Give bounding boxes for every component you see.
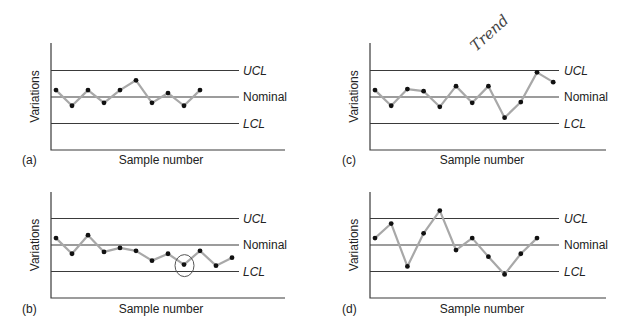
data-point bbox=[134, 248, 139, 253]
data-point bbox=[102, 100, 107, 105]
data-point bbox=[502, 115, 507, 120]
lcl-label: LCL bbox=[564, 265, 586, 279]
data-point bbox=[166, 251, 171, 256]
data-point bbox=[54, 236, 59, 241]
lcl-label: LCL bbox=[243, 265, 265, 279]
data-point bbox=[389, 221, 394, 226]
y-axis-label: Variations bbox=[28, 70, 42, 122]
y-axis-label: Variations bbox=[28, 219, 42, 271]
data-point bbox=[373, 88, 378, 93]
data-point bbox=[150, 258, 155, 263]
data-point bbox=[437, 208, 442, 213]
panel-label: (b) bbox=[22, 302, 37, 316]
data-point bbox=[198, 88, 203, 93]
data-point bbox=[70, 251, 75, 256]
data-point bbox=[405, 87, 410, 92]
data-point bbox=[454, 84, 459, 89]
panel-label: (d) bbox=[342, 302, 357, 316]
data-point bbox=[437, 104, 442, 109]
data-point bbox=[182, 262, 187, 267]
data-point bbox=[421, 231, 426, 236]
nominal-label: Nominal bbox=[564, 238, 608, 252]
x-axis-label: Sample number bbox=[119, 153, 204, 167]
x-axis-label: Sample number bbox=[440, 153, 525, 167]
control-chart-panel-d: UCLNominalLCLVariationsSample number(d) bbox=[342, 192, 608, 316]
data-point bbox=[405, 264, 410, 269]
ucl-label: UCL bbox=[564, 64, 588, 78]
series-line bbox=[375, 72, 553, 117]
y-axis-label: Variations bbox=[347, 70, 361, 122]
data-point bbox=[421, 89, 426, 94]
data-point bbox=[214, 263, 219, 268]
data-point bbox=[150, 100, 155, 105]
data-point bbox=[118, 88, 123, 93]
data-point bbox=[454, 248, 459, 253]
lcl-label: LCL bbox=[564, 117, 586, 131]
data-point bbox=[86, 88, 91, 93]
data-point bbox=[470, 100, 475, 105]
x-axis-label: Sample number bbox=[440, 302, 525, 316]
data-point bbox=[54, 88, 59, 93]
data-point bbox=[166, 91, 171, 96]
lcl-label: LCL bbox=[243, 117, 265, 131]
data-point bbox=[70, 103, 75, 108]
data-point bbox=[535, 70, 540, 75]
y-axis-label: Variations bbox=[347, 219, 361, 271]
data-point bbox=[86, 233, 91, 238]
data-point bbox=[182, 103, 187, 108]
data-point bbox=[535, 236, 540, 241]
control-charts-figure: UCLNominalLCLVariationsSample number(a)U… bbox=[0, 0, 619, 330]
control-chart-panel-b: UCLNominalLCLVariationsSample number(b) bbox=[22, 192, 287, 316]
nominal-label: Nominal bbox=[243, 90, 287, 104]
nominal-label: Nominal bbox=[564, 90, 608, 104]
data-point bbox=[486, 254, 491, 259]
ucl-label: UCL bbox=[243, 212, 267, 226]
data-point bbox=[134, 78, 139, 83]
ucl-label: UCL bbox=[243, 64, 267, 78]
data-point bbox=[518, 100, 523, 105]
data-point bbox=[518, 251, 523, 256]
data-point bbox=[198, 248, 203, 253]
data-point bbox=[486, 84, 491, 89]
data-point bbox=[102, 249, 107, 254]
data-point bbox=[118, 246, 123, 251]
series-line bbox=[375, 211, 537, 275]
data-point bbox=[373, 236, 378, 241]
data-point bbox=[502, 272, 507, 277]
data-point bbox=[389, 103, 394, 108]
data-point bbox=[470, 236, 475, 241]
nominal-label: Nominal bbox=[243, 238, 287, 252]
series-line bbox=[56, 235, 232, 265]
handwritten-annotation: Trend bbox=[467, 11, 513, 55]
data-point bbox=[551, 80, 556, 85]
x-axis-label: Sample number bbox=[119, 302, 204, 316]
panel-label: (c) bbox=[342, 153, 356, 167]
control-chart-panel-c: UCLNominalLCLTrendVariationsSample numbe… bbox=[342, 11, 608, 167]
series-line bbox=[56, 80, 200, 105]
ucl-label: UCL bbox=[564, 212, 588, 226]
data-point bbox=[230, 255, 235, 260]
control-chart-panel-a: UCLNominalLCLVariationsSample number(a) bbox=[22, 43, 287, 167]
panel-label: (a) bbox=[22, 153, 37, 167]
